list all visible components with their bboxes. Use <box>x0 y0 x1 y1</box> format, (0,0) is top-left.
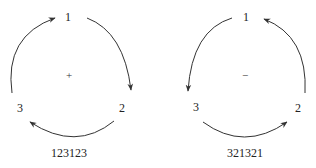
node-1-label: 1 <box>65 10 71 24</box>
arc-3-to-1-arrow-icon <box>11 18 55 93</box>
node-2-label: 2 <box>295 101 301 115</box>
arc-1-to-3-arrow-icon <box>188 18 232 91</box>
arc-2-to-3-arrow-icon <box>30 121 114 137</box>
right-cycle-diagram: 1 2 3 − 321321 <box>188 10 305 160</box>
sign-label: − <box>242 69 248 81</box>
arc-1-to-2-arrow-icon <box>87 18 131 90</box>
node-3-label: 3 <box>17 101 23 115</box>
sequence-label: 123123 <box>51 146 87 160</box>
node-2-label: 2 <box>119 101 125 115</box>
node-3-label: 3 <box>193 100 199 114</box>
node-1-label: 1 <box>243 10 249 24</box>
sequence-label: 321321 <box>227 146 263 160</box>
sign-label: + <box>66 69 72 81</box>
left-cycle-diagram: 1 2 3 + 123123 <box>11 10 131 160</box>
arc-2-to-1-arrow-icon <box>264 19 305 93</box>
cycle-diagrams: 1 2 3 + 123123 1 2 3 − 321321 <box>0 0 316 168</box>
arc-3-to-2-arrow-icon <box>203 122 287 137</box>
